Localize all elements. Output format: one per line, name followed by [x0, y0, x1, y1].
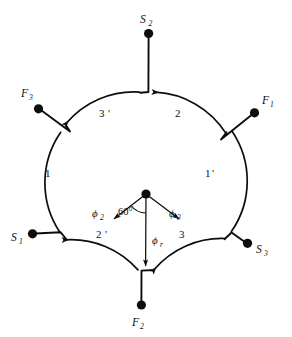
- phasor-label-phi-2-symbol: ϕ: [92, 207, 98, 219]
- phasor-label-phi-3-symbol: ϕ: [169, 207, 175, 219]
- segment-label-3-prime: 3 ': [99, 107, 110, 119]
- diagram-canvas: S 2 F 3 F 1 S 1 S 3 F 2 1 3: [0, 0, 292, 337]
- terminal-label-s2-sub: 2: [149, 19, 153, 28]
- arc-segment-3: [154, 238, 225, 269]
- terminal-dot-f2[interactable]: [137, 300, 146, 309]
- arc-segment-2-prime: [66, 240, 138, 270]
- ring-winding-figure: S 2 F 3 F 1 S 1 S 3 F 2 1 3: [0, 0, 292, 337]
- terminal-label-f1-sub: 1: [270, 100, 274, 109]
- angle-label-60-degrees: 60°: [118, 206, 133, 217]
- arc-path-2-prime: [66, 240, 138, 270]
- terminal-label-f3-sub: 3: [28, 93, 33, 102]
- segment-label-3: 3: [179, 228, 185, 240]
- phasor-label-phi-3-sub: 3: [176, 213, 181, 222]
- lead-line-s2: [141, 37, 149, 93]
- segment-label-3-prime-number: 3: [99, 107, 105, 119]
- segment-label-1-prime-mark: ': [212, 167, 214, 179]
- hub-node-dot: [141, 189, 150, 198]
- arc-path-3: [154, 238, 225, 269]
- lead-line-s3: [225, 233, 245, 242]
- terminal-label-f1: F 1: [261, 94, 274, 109]
- terminal-label-f3: F 3: [20, 87, 33, 102]
- phasor-label-phi-r-symbol: ϕ: [152, 234, 158, 246]
- arc-segment-1: [45, 132, 61, 232]
- segment-label-2-prime-mark: ': [105, 228, 107, 240]
- segment-label-3-number: 3: [179, 228, 185, 240]
- lead-line-f1: [221, 115, 252, 140]
- segment-label-1-prime-number: 1: [205, 167, 211, 179]
- terminal-label-f1-letter: F: [261, 94, 270, 106]
- terminal-label-s3: S 3: [256, 243, 268, 258]
- segment-label-2-number: 2: [175, 107, 181, 119]
- terminal-dot-s2[interactable]: [144, 29, 153, 38]
- terminal-label-s1-sub: 1: [19, 237, 23, 246]
- arc-path-1: [45, 132, 61, 232]
- arc-segment-1-prime: [231, 131, 247, 232]
- segment-label-3-prime-mark: ': [108, 107, 110, 119]
- angle-arc-60: [131, 206, 146, 214]
- lead-line-s1: [36, 232, 67, 239]
- terminal-label-s1: S 1: [11, 231, 23, 246]
- phasor-label-phi-3: ϕ 3: [169, 207, 181, 222]
- terminal-label-f3-letter: F: [20, 87, 29, 99]
- terminal-label-f2-letter: F: [131, 316, 140, 328]
- arc-path-1-prime: [231, 131, 247, 232]
- arc-path-2: [156, 92, 226, 133]
- phasor-label-phi-r-sub: r: [160, 240, 163, 249]
- arc-segment-2: [156, 92, 226, 133]
- phasor-label-phi-2: ϕ 2: [92, 207, 104, 222]
- terminal-dot-s3[interactable]: [243, 239, 252, 248]
- terminal-dot-s1[interactable]: [28, 229, 37, 238]
- terminal-label-s1-letter: S: [11, 231, 17, 243]
- segment-label-1-prime: 1 ': [205, 167, 214, 179]
- phasor-label-phi-2-sub: 2: [100, 213, 104, 222]
- terminal-label-s2: S 2: [140, 13, 153, 28]
- lead-line-f2: [141, 270, 153, 302]
- phasor-label-phi-r: ϕ r: [152, 234, 163, 249]
- terminal-label-f2-sub: 2: [140, 322, 144, 331]
- terminal-dot-f3[interactable]: [34, 104, 43, 113]
- segment-label-2-prime-number: 2: [96, 228, 102, 240]
- segment-label-2: 2: [175, 107, 181, 119]
- segment-label-1: 1: [45, 167, 51, 179]
- terminal-dot-f1[interactable]: [250, 108, 259, 117]
- terminal-label-s3-letter: S: [256, 243, 262, 255]
- segment-label-2-prime: 2 ': [96, 228, 107, 240]
- terminal-label-s3-sub: 3: [263, 249, 268, 258]
- terminal-label-f2: F 2: [131, 316, 144, 331]
- terminal-label-s2-letter: S: [140, 13, 146, 25]
- lead-line-f3: [42, 111, 71, 132]
- segment-label-1-number: 1: [45, 167, 51, 179]
